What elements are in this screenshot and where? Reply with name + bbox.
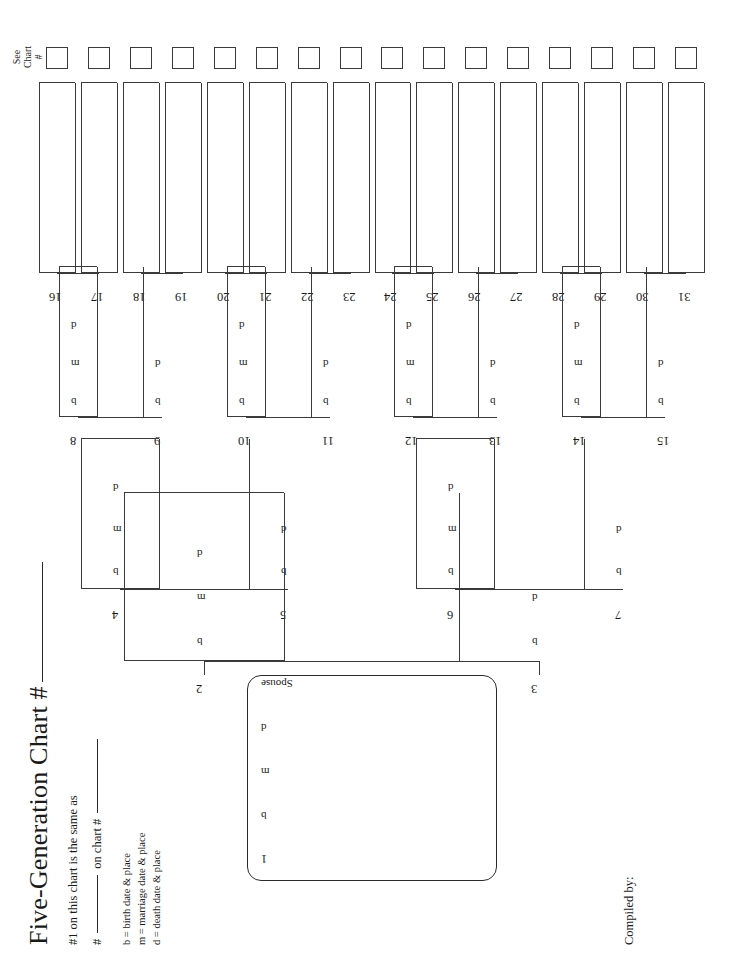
gen4-box-13-rule [478,267,479,417]
gen5-see-chart-square-30[interactable] [633,47,655,69]
gen4-field-11-b: b [323,396,329,407]
gen2-sibling-connector [204,661,540,662]
gen5-box-18-bottom [159,83,160,273]
gen3-box-4-bottom [159,439,160,589]
gen2-box-2-top [124,493,125,661]
gen4-field-12-b: b [406,396,412,407]
connector-subject-to-3 [539,661,540,675]
gen5-box-25-right [416,82,452,83]
gen5-see-chart-square-19[interactable] [172,47,194,69]
gen4-sibling-connector-12 [413,417,497,418]
gen5-number-23: 23 [343,291,356,304]
gen5-see-chart-square-21[interactable] [256,47,278,69]
gen3-box-6-top [416,439,417,589]
gen5-number-19: 19 [175,291,188,304]
gen5-sibling-connector-20 [225,273,267,274]
gen3-field-4-d: d [113,482,119,493]
gen5-sibling-connector-30 [644,273,686,274]
gen5-sibling-connector-16 [57,273,99,274]
gen5-box-26-top [458,83,459,273]
connector-subject-to-2 [204,661,205,675]
gen4-box-10-top [227,267,228,417]
gen3-field-6-d: d [448,482,454,493]
gen4-field-12-m: m [406,358,415,369]
gen2-field-2-d: d [197,548,203,559]
gen5-see-chart-square-16[interactable] [46,47,68,69]
gen5-box-30-bottom [662,83,663,273]
gen4-box-14-right [562,266,600,267]
gen4-box-10-right [227,266,265,267]
legend-marriage: m = marriage date & place [134,515,149,945]
gen5-see-chart-square-23[interactable] [340,47,362,69]
gen4-field-10-m: m [239,358,248,369]
gen5-box-20-top [207,83,208,273]
gen5-box-30-right [626,82,662,83]
gen3-field-4-b: b [113,566,119,577]
title-block: Five-Generation Chart # #1 on this chart… [24,515,165,945]
gen5-box-23-bottom [369,83,370,273]
gen5-see-chart-square-17[interactable] [88,47,110,69]
gen5-see-chart-square-27[interactable] [507,47,529,69]
gen4-sibling-connector-14 [581,417,665,418]
gen5-sibling-connector-18 [141,273,183,274]
gen5-number-31: 31 [678,291,691,304]
gen4-number-15: 15 [657,435,670,448]
gen5-box-16-top [39,83,40,273]
gen4-field-12-d: d [406,320,412,331]
gen5-box-18-top [123,83,124,273]
legend-death: d = death date & place [149,515,164,945]
gen3-box-5-rule [249,439,250,589]
gen5-see-chart-square-22[interactable] [298,47,320,69]
gen5-box-31-bottom [704,83,705,273]
chart-number-input[interactable] [97,875,98,933]
gen4-box-8-right [59,266,97,267]
gen5-box-20-bottom [243,83,244,273]
gen5-see-chart-square-20[interactable] [214,47,236,69]
gen4-field-13-b: b [490,396,496,407]
gen5-see-chart-square-28[interactable] [549,47,571,69]
gen5-box-17-right [81,82,117,83]
title-blank-rule[interactable] [42,562,43,682]
gen5-see-chart-square-31[interactable] [675,47,697,69]
same-as-text: #1 on this chart is the same as [66,795,80,945]
gen3-field-4-m: m [113,524,122,535]
see-chart-line-1: See [11,37,22,77]
gen3-box-4-top [81,439,82,589]
gen5-see-chart-square-18[interactable] [130,47,152,69]
gen5-box-19-bottom [201,83,202,273]
gen5-box-29-right [584,82,620,83]
subject-box[interactable] [247,675,497,881]
gen5-box-23-right [333,82,369,83]
gen4-field-14-d: d [574,320,580,331]
gen5-box-27-right [500,82,536,83]
gen5-see-chart-square-26[interactable] [465,47,487,69]
gen3-number-4: 4 [112,609,118,622]
gen5-box-26-bottom [494,83,495,273]
gen4-box-12-right [394,266,432,267]
see-chart-caption: See Chart # [11,37,44,77]
gen3-box-4-right [81,438,159,439]
gen3-box-6-bottom [494,439,495,589]
gen5-box-28-right [542,82,578,83]
gen2-number-3: 3 [531,683,537,696]
gen5-box-28-bottom [578,83,579,273]
subject-field-spouse: Spouse [261,678,293,689]
other-chart-number-input[interactable] [97,739,98,813]
gen5-see-chart-square-24[interactable] [381,47,403,69]
gen5-sibling-connector-24 [392,273,434,274]
gen4-field-13-d: d [490,358,496,369]
chart-page: Five-Generation Chart # #1 on this chart… [0,0,743,973]
gen5-see-chart-square-25[interactable] [423,47,445,69]
gen5-box-22-top [291,83,292,273]
compiled-by-label: Compiled by: [622,877,637,945]
gen5-sibling-connector-22 [309,273,351,274]
gen4-field-8-d: d [71,320,77,331]
legend: b = birth date & place m = marriage date… [119,515,165,945]
gen3-field-6-b: b [448,566,454,577]
page-title-text: Five-Generation Chart # [24,686,53,945]
subject-number: 1 [261,853,267,866]
gen4-box-14-top [562,267,563,417]
gen4-field-14-b: b [574,396,580,407]
gen5-sibling-connector-26 [476,273,518,274]
gen5-see-chart-square-29[interactable] [591,47,613,69]
